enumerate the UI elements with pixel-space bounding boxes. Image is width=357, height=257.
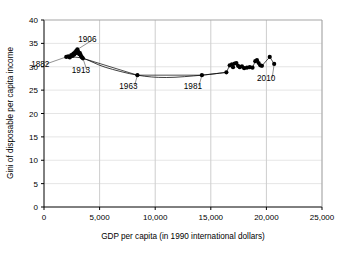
gini-vs-gdp-scatter-chart: 0510152025303540 05,00010,00015,00020,00… (0, 0, 357, 257)
y-tick-label: 10 (29, 156, 38, 165)
data-point (250, 66, 254, 70)
x-tick-label: 15,000 (199, 213, 224, 222)
annotation-label-1906: 1906 (78, 35, 97, 44)
x-tick-label: 5,000 (90, 213, 111, 222)
x-tick-label: 0 (42, 213, 47, 222)
chart-container: 0510152025303540 05,00010,00015,00020,00… (0, 0, 357, 257)
y-axis-title: Gini of disposable per capita income (6, 47, 15, 179)
y-tick-label: 0 (34, 203, 39, 212)
y-tick-label: 20 (29, 110, 38, 119)
x-tick-label: 20,000 (254, 213, 279, 222)
y-tick-label: 15 (29, 133, 38, 142)
y-tick-label: 5 (34, 180, 39, 189)
annotation-label-1963: 1963 (119, 82, 138, 91)
data-point (231, 65, 235, 69)
y-tick-label: 35 (29, 39, 38, 48)
chart-background (0, 0, 357, 257)
annotation-label-1913: 1913 (72, 66, 91, 75)
data-point (224, 70, 228, 74)
y-tick-label: 25 (29, 86, 38, 95)
annotation-label-2010: 2010 (257, 74, 276, 83)
annotation-label-1981: 1981 (184, 82, 203, 91)
x-axis-title: GDP per capita (in 1990 international do… (101, 232, 265, 241)
annotation-label-1882: 1882 (31, 60, 50, 69)
data-point (81, 56, 85, 60)
data-point (260, 64, 264, 68)
x-tick-label: 25,000 (310, 213, 335, 222)
y-tick-label: 40 (29, 16, 38, 25)
x-tick-label: 10,000 (143, 213, 168, 222)
data-point (268, 55, 272, 59)
